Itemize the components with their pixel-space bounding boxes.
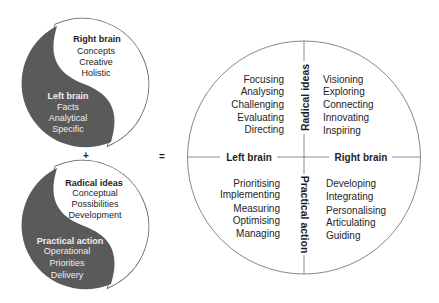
right-brain-item: Creative — [79, 57, 113, 67]
quadrant-item: Visioning — [323, 74, 363, 85]
quadrant-item: Connecting — [323, 99, 374, 110]
quadrant-item: Innovating — [323, 112, 369, 123]
quadrant-item: Challenging — [231, 99, 284, 110]
quadrant-item: Measuring — [233, 203, 280, 214]
quadrant-bottom-right: Developing Integrating Personalising Art… — [326, 178, 386, 241]
quadrant-top-right: Visioning Exploring Connecting Innovatin… — [323, 74, 374, 136]
axis-label-radical-ideas: Radical ideas — [299, 64, 311, 131]
axis-label-right-brain: Right brain — [335, 152, 388, 163]
brain-diagram: Right brain Concepts Creative Holistic L… — [0, 0, 439, 303]
practical-action-item: Operational — [44, 246, 91, 256]
plus-sign: + — [83, 150, 89, 161]
practical-action-title: Practical action — [37, 236, 104, 246]
quadrant-item: Prioritising — [233, 178, 280, 189]
axis-label-practical-action: Practical action — [299, 176, 311, 254]
quadrant-item: Exploring — [323, 86, 365, 97]
quadrant-top-left: Focusing Analysing Challenging Evaluatin… — [231, 74, 284, 136]
quadrant-item: Analysing — [241, 86, 284, 97]
radical-ideas-item: Possibilities — [71, 199, 119, 209]
quadrant-item: Focusing — [243, 74, 284, 85]
practical-action-item: Delivery — [51, 270, 84, 280]
quadrant-item: Personalising — [326, 205, 386, 216]
yin-yang-top: Right brain Concepts Creative Holistic L… — [22, 21, 147, 148]
quadrant-item: Optimising — [233, 215, 280, 226]
quadrant-item: Articulating — [326, 217, 375, 228]
quadrant-item: Evaluating — [237, 112, 284, 123]
quadrant-item: Integrating — [326, 191, 373, 202]
left-brain-item: Analytical — [49, 113, 88, 123]
axis-label-left-brain: Left brain — [226, 152, 272, 163]
equals-sign: = — [159, 151, 165, 162]
quadrant-item: Implementing — [220, 189, 280, 200]
right-brain-title: Right brain — [73, 34, 121, 44]
practical-action-item: Priorities — [49, 258, 85, 268]
left-brain-item: Specific — [52, 124, 84, 134]
left-brain-item: Facts — [57, 102, 80, 112]
quadrant-item: Inspiring — [323, 125, 361, 136]
quadrant-item: Developing — [326, 178, 376, 189]
radical-ideas-title: Radical ideas — [65, 178, 123, 188]
quadrant-item: Managing — [236, 228, 280, 239]
quadrant-bottom-left: Prioritising Implementing Measuring Opti… — [220, 178, 280, 240]
quadrant-item: Guiding — [326, 230, 360, 241]
right-brain-item: Holistic — [81, 68, 111, 78]
right-brain-item: Concepts — [77, 46, 116, 56]
quadrant-matrix: Left brain Right brain Radical ideas Pra… — [187, 41, 421, 274]
radical-ideas-item: Conceptual — [72, 188, 118, 198]
quadrant-item: Directing — [245, 124, 284, 135]
left-brain-title: Left brain — [47, 91, 88, 101]
radical-ideas-item: Development — [68, 210, 122, 220]
